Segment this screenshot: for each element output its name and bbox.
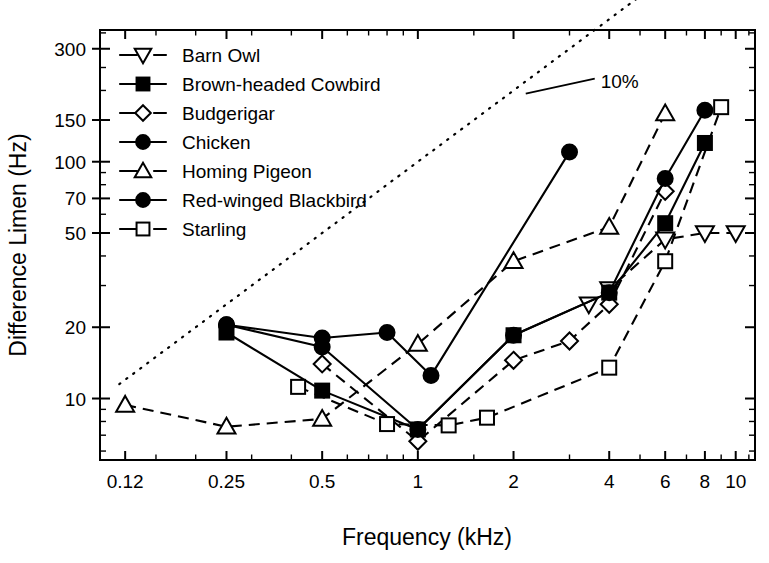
x-tick-label: 1: [413, 471, 424, 492]
data-point-marker-circle-filled: [658, 171, 673, 186]
legend-item-barn-owl[interactable]: Barn Owl: [120, 45, 260, 66]
x-tick-label: 6: [660, 471, 671, 492]
y-tick-label: 50: [65, 223, 86, 244]
data-point-marker-square-open: [137, 223, 150, 236]
legend-item-budgerigar[interactable]: Budgerigar: [120, 103, 276, 124]
data-point-marker-square-filled: [137, 78, 150, 91]
data-point-marker-triangle-up-open: [313, 410, 331, 426]
chart-canvas: 0.120.250.51246810 30015010070502010 10%…: [0, 0, 769, 563]
y-tick-label: 300: [54, 39, 86, 60]
data-point-marker-square-open: [714, 100, 728, 114]
x-tick-label: 2: [508, 471, 519, 492]
x-tick-label: 8: [700, 471, 711, 492]
y-axis-tick-labels: 30015010070502010: [54, 39, 86, 410]
y-tick-label: 150: [54, 110, 86, 131]
data-point-marker-square-open: [380, 417, 394, 431]
legend-label: Barn Owl: [182, 45, 260, 66]
x-axis-title: Frequency (kHz): [342, 524, 512, 550]
data-point-marker-square-filled: [658, 216, 672, 230]
legend-item-red-winged-blackbird[interactable]: Red-winged Blackbird: [120, 190, 367, 211]
legend-label: Chicken: [182, 132, 251, 153]
data-point-marker-triangle-down-open: [727, 226, 745, 242]
legend-label: Brown-headed Cowbird: [182, 74, 381, 95]
legend-item-chicken[interactable]: Chicken: [120, 132, 251, 153]
data-point-marker-circle-filled: [380, 325, 395, 340]
legend-label: Starling: [182, 219, 246, 240]
data-point-marker-circle-filled: [506, 328, 521, 343]
x-tick-label: 10: [725, 471, 746, 492]
data-point-marker-triangle-down-open: [135, 49, 152, 63]
data-point-marker-square-open: [442, 418, 456, 432]
chart-legend: Barn OwlBrown-headed CowbirdBudgerigarCh…: [120, 45, 381, 240]
y-tick-label: 20: [65, 317, 86, 338]
legend-label: Red-winged Blackbird: [182, 190, 367, 211]
data-point-marker-triangle-up-open: [600, 218, 618, 234]
data-point-marker-circle-filled: [424, 368, 439, 383]
data-point-marker-triangle-up-open: [116, 396, 134, 412]
data-point-marker-square-open: [602, 361, 616, 375]
x-axis-tick-labels: 0.120.250.51246810: [107, 471, 747, 492]
data-point-marker-triangle-up-open: [505, 252, 523, 268]
data-point-marker-circle-filled: [562, 144, 577, 159]
ten-percent-annotation-label: 10%: [601, 71, 639, 92]
legend-item-brown-headed-cowbird[interactable]: Brown-headed Cowbird: [120, 74, 381, 95]
x-tick-label: 0.25: [208, 471, 245, 492]
y-tick-label: 100: [54, 152, 86, 173]
data-point-marker-square-open: [658, 254, 672, 268]
legend-item-starling[interactable]: Starling: [120, 219, 246, 240]
data-point-marker-circle-filled: [697, 103, 712, 118]
annotation-leader-line: [526, 79, 595, 94]
x-tick-label: 4: [604, 471, 615, 492]
x-tick-label: 0.12: [107, 471, 144, 492]
data-point-marker-circle-filled: [136, 135, 150, 149]
data-point-marker-triangle-up-open: [656, 104, 674, 120]
y-axis-ticks: [92, 33, 755, 451]
y-tick-label: 10: [65, 389, 86, 410]
legend-label: Homing Pigeon: [182, 161, 312, 182]
series-homing-pigeon: [116, 104, 674, 433]
data-point-marker-circle-filled: [136, 193, 150, 207]
data-point-marker-triangle-up-open: [135, 163, 152, 177]
data-point-marker-diamond-open: [135, 105, 151, 121]
data-point-marker-square-open: [480, 411, 494, 425]
legend-item-homing-pigeon[interactable]: Homing Pigeon: [120, 161, 312, 182]
y-tick-label: 70: [65, 188, 86, 209]
data-point-marker-circle-filled: [602, 285, 617, 300]
data-point-marker-square-open: [291, 380, 305, 394]
figure-container: 0.120.250.51246810 30015010070502010 10%…: [0, 0, 769, 563]
y-axis-title: Difference Limen (Hz): [5, 133, 31, 356]
x-tick-label: 0.5: [309, 471, 335, 492]
legend-label: Budgerigar: [182, 103, 276, 124]
data-point-marker-circle-filled: [219, 317, 234, 332]
data-point-marker-circle-filled: [315, 340, 330, 355]
